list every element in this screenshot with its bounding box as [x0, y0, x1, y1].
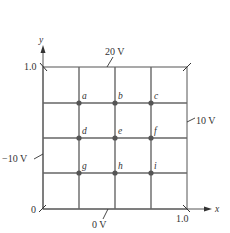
point-g — [76, 170, 81, 175]
origin-label: 0 — [31, 204, 36, 215]
y-axis-arrow-icon — [41, 45, 46, 53]
point-label-a: a — [82, 91, 87, 101]
point-label-b: b — [118, 91, 123, 101]
x-axis-label: x — [214, 204, 220, 214]
point-label-c: c — [154, 91, 159, 101]
potential-grid-diagram: a b c d e f g h i y x 1.0 1.0 0 20 V −10… — [0, 0, 230, 233]
point-a — [76, 100, 81, 105]
point-d — [76, 135, 81, 140]
point-label-f: f — [154, 126, 158, 136]
point-label-g: g — [82, 161, 87, 171]
point-c — [148, 100, 153, 105]
point-h — [112, 170, 117, 175]
y-max-label: 1.0 — [24, 61, 37, 72]
point-label-e: e — [118, 126, 122, 136]
x-axis-arrow-icon — [204, 207, 212, 212]
point-e — [112, 135, 117, 140]
boundary-left-label: −10 V — [2, 153, 28, 164]
point-label-i: i — [154, 161, 157, 171]
boundary-bottom-label: 0 V — [92, 219, 107, 230]
point-i — [148, 170, 153, 175]
y-axis-label: y — [38, 35, 44, 45]
point-label-h: h — [118, 161, 123, 171]
x-max-label: 1.0 — [176, 213, 189, 224]
boundary-top-label: 20 V — [105, 46, 125, 57]
point-f — [148, 135, 153, 140]
point-b — [112, 100, 117, 105]
boundary-right-label: 10 V — [196, 115, 216, 126]
point-label-d: d — [82, 126, 87, 136]
